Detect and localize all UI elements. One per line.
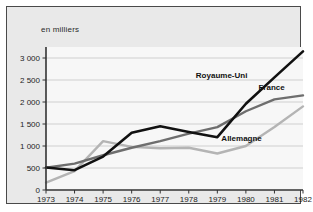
y-tick-label: 3 000 [20, 54, 40, 63]
series-label-france: France [258, 83, 284, 92]
x-tick-label: 1975 [94, 195, 112, 204]
y-tick-label: 2 000 [20, 98, 40, 107]
x-tick-label: 1976 [123, 195, 141, 204]
x-tick-label: 1980 [237, 195, 255, 204]
x-tick-label: 1982 [294, 195, 309, 204]
x-axis-labels: 1973197419751976197719781979198019811982 [46, 194, 303, 206]
plot-area: Royaume-UniFranceAllemagne [46, 47, 303, 190]
x-tick-label: 1978 [180, 195, 198, 204]
chart-frame: en milliers 05001 0001 5002 0002 5003 00… [6, 6, 301, 204]
unit-note: en milliers [41, 25, 79, 34]
y-tick-label: 1 500 [20, 120, 40, 129]
x-tick-label: 1974 [66, 195, 84, 204]
x-tick-label: 1979 [208, 195, 226, 204]
x-tick-label: 1977 [151, 195, 169, 204]
series-label-royaume-uni: Royaume-Uni [196, 70, 248, 79]
x-tick-label: 1973 [37, 195, 55, 204]
y-tick-label: 2 500 [20, 76, 40, 85]
y-axis-labels: 05001 0001 5002 0002 5003 000 [7, 47, 40, 190]
y-tick-label: 500 [27, 164, 40, 173]
x-tick-label: 1981 [266, 195, 284, 204]
series-label-allemagne: Allemagne [221, 134, 261, 143]
y-tick-label: 1 000 [20, 142, 40, 151]
y-tick-label: 0 [36, 186, 40, 195]
axis-lines [46, 47, 303, 190]
